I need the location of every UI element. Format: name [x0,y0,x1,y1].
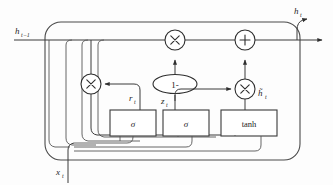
sigmoid-reset-box: σ [110,110,156,136]
sigmoid-update-label: σ [184,119,189,129]
label-input-hidden-state: h t−1 [15,26,30,38]
label-x-t-subscript: t [62,173,64,179]
output-state-branch [297,19,307,40]
multiply-update-node [165,30,185,50]
label-h-prev-base: h [15,26,20,36]
label-h-tilde-subscript: t [265,94,267,100]
label-x-t-base: x [55,167,60,177]
add-node [235,30,255,50]
label-h-prev-subscript: t−1 [21,32,30,38]
label-r-t-base: r [129,93,133,103]
label-h-t-subscript: t [300,12,302,18]
one-minus-label: 1- [171,80,179,90]
gru-diagram-canvas: σ σ tanh 1- [0,0,333,185]
label-input-x: x t [55,167,64,179]
sigmoid-update-box: σ [163,110,209,136]
label-output-hidden-state: h t [294,6,302,18]
multiply-candidate-node [235,60,255,110]
label-z-t-subscript: t [166,102,168,108]
tanh-box: tanh [221,110,277,136]
label-h-tilde-base: h̃ [258,88,263,98]
label-reset-gate: r t [129,93,136,105]
update-gate-path: 1- [153,60,197,110]
gru-diagram-svg: σ σ tanh 1- [0,0,333,185]
sigmoid-reset-label: σ [131,119,136,129]
tanh-label: tanh [242,119,257,129]
reset-gate-path [105,84,140,110]
label-r-t-subscript: t [134,99,136,105]
label-update-gate: z t [160,96,168,108]
label-h-t-base: h [294,6,299,16]
label-candidate-state: h̃ t [258,88,267,100]
label-z-t-base: z [160,96,165,106]
